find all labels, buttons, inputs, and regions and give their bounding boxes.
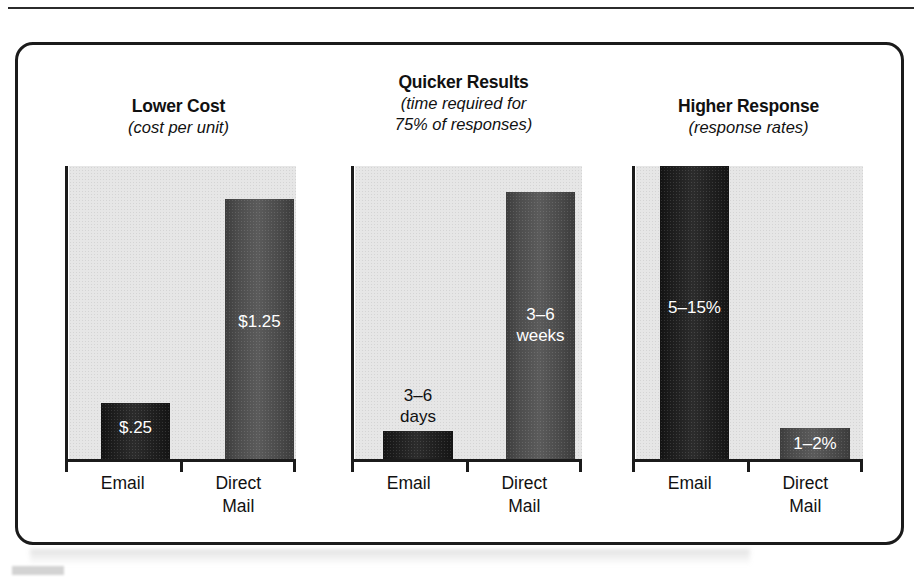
chart-title: Lower Cost	[36, 95, 321, 117]
scan-artifact-smudge	[30, 549, 750, 565]
bar-value-label-email: 5–15%	[660, 297, 729, 318]
chart-subtitle: (response rates)	[606, 117, 891, 138]
y-axis-line	[632, 166, 635, 459]
chart-title-block: Lower Cost (cost per unit)	[36, 95, 321, 138]
bar-direct-mail[interactable]: 1–2%	[780, 428, 850, 459]
category-label-email: Email	[351, 472, 467, 495]
category-label-email: Email	[632, 472, 748, 495]
chart-title: Higher Response	[606, 95, 891, 117]
bar-value-label-direct-mail: 1–2%	[780, 433, 850, 454]
x-axis-tick-left	[632, 461, 635, 472]
bar-value-label-email: 3–6 days	[383, 385, 453, 427]
bar-email[interactable]	[383, 431, 453, 459]
bar-direct-mail[interactable]: 3–6 weeks	[506, 192, 575, 459]
bar-direct-mail[interactable]: $1.25	[225, 199, 294, 459]
bar-email[interactable]: $.25	[101, 403, 170, 459]
x-axis-tick-middle	[466, 461, 469, 472]
plot-area: $.25 $1.25 Email Direct Mail	[65, 166, 296, 459]
chart-title-block: Quicker Results (time required for 75% o…	[321, 71, 606, 135]
x-axis-tick-right	[860, 461, 863, 472]
y-axis-line	[65, 166, 68, 459]
category-label-direct-mail: Direct Mail	[748, 472, 864, 518]
bar-value-label-email: $.25	[101, 417, 170, 438]
category-label-direct-mail: Direct Mail	[181, 472, 297, 518]
x-axis-tick-right	[293, 461, 296, 472]
x-axis-tick-left	[65, 461, 68, 472]
chart-title-block: Higher Response (response rates)	[606, 95, 891, 138]
category-label-email: Email	[65, 472, 181, 495]
plot-area: 3–6 days 3–6 weeks Email Direct Mail	[351, 166, 582, 459]
figure-frame: Lower Cost (cost per unit) $.25 $1.25 Em…	[15, 42, 904, 545]
y-axis-line	[351, 166, 354, 459]
chart-subtitle: (cost per unit)	[36, 117, 321, 138]
x-axis-tick-left	[351, 461, 354, 472]
chart-panel-quicker-results: Quicker Results (time required for 75% o…	[321, 45, 606, 542]
category-label-direct-mail: Direct Mail	[467, 472, 583, 518]
bar-texture	[383, 431, 453, 459]
x-axis-tick-right	[579, 461, 582, 472]
bar-value-label-direct-mail: $1.25	[225, 311, 294, 332]
chart-title: Quicker Results	[321, 71, 606, 93]
page-top-rule	[8, 7, 914, 9]
scan-artifact-mark	[12, 566, 64, 575]
x-axis-tick-middle	[180, 461, 183, 472]
chart-panel-higher-response: Higher Response (response rates) 5–15% 1…	[606, 45, 891, 542]
x-axis-tick-middle	[747, 461, 750, 472]
chart-panel-lower-cost: Lower Cost (cost per unit) $.25 $1.25 Em…	[36, 45, 321, 542]
bar-email[interactable]: 5–15%	[660, 166, 729, 459]
bar-value-label-direct-mail: 3–6 weeks	[506, 304, 575, 346]
plot-area: 5–15% 1–2% Email Direct Mail	[632, 166, 863, 459]
chart-subtitle: (time required for 75% of responses)	[321, 93, 606, 135]
